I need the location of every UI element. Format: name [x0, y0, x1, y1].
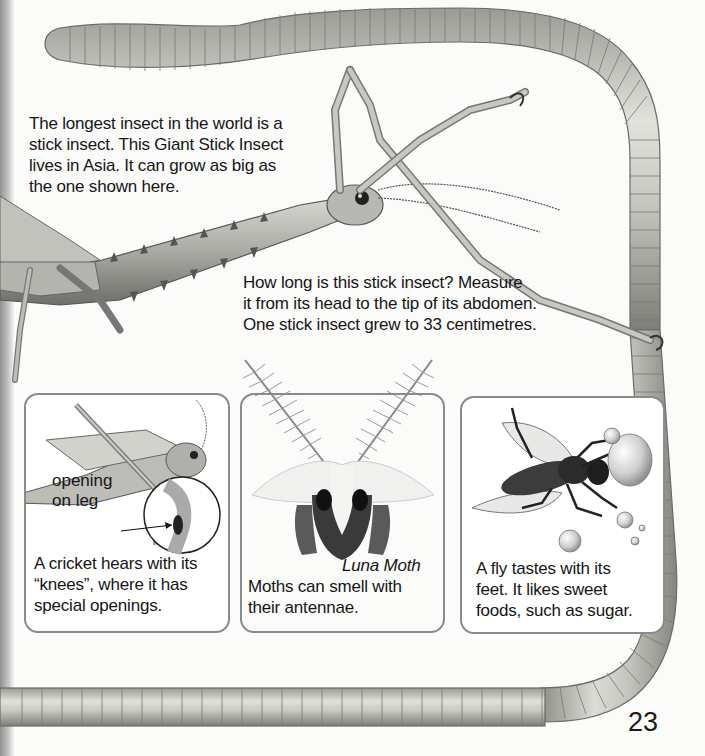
luna-moth-title: Luna Moth	[342, 555, 421, 576]
intro-line: the one shown here.	[29, 176, 283, 197]
fly-panel: A fly tastes with its feet. It likes swe…	[460, 396, 665, 634]
intro-line: lives in Asia. It can grow as big as	[29, 155, 283, 176]
caption-line: A cricket hears with its	[34, 553, 197, 574]
intro-line: stick insect. This Giant Stick Insect	[29, 134, 283, 155]
caption-line: “knees”, where it has	[34, 574, 197, 595]
caption-line: Moths can smell with	[248, 576, 402, 597]
opening-on-leg-label: opening on leg	[52, 471, 113, 511]
moth-panel: Luna Moth Moths can smell with their ant…	[240, 393, 445, 633]
moth-caption: Moths can smell with their antennae.	[248, 576, 402, 618]
caption-line: feet. It likes sweet	[476, 579, 632, 600]
fly-caption: A fly tastes with its feet. It likes swe…	[476, 558, 632, 621]
intro-line: The longest insect in the world is a	[29, 113, 283, 134]
label-line: on leg	[52, 491, 113, 511]
question-line: How long is this stick insect? Measure	[243, 272, 537, 293]
cricket-caption: A cricket hears with its “knees”, where …	[34, 553, 197, 616]
cricket-panel: opening on leg A cricket hears with its …	[24, 393, 230, 633]
question-paragraph: How long is this stick insect? Measure i…	[243, 272, 537, 335]
question-line: it from its head to the tip of its abdom…	[243, 293, 537, 314]
question-line: One stick insect grew to 33 centimetres.	[243, 314, 537, 335]
caption-line: special openings.	[34, 595, 197, 616]
intro-paragraph: The longest insect in the world is a sti…	[29, 113, 283, 197]
caption-line: A fly tastes with its	[476, 558, 632, 579]
caption-line: foods, such as sugar.	[476, 600, 632, 621]
label-line: opening	[52, 471, 113, 491]
caption-line: their antennae.	[248, 597, 402, 618]
page-number: 23	[628, 707, 658, 738]
